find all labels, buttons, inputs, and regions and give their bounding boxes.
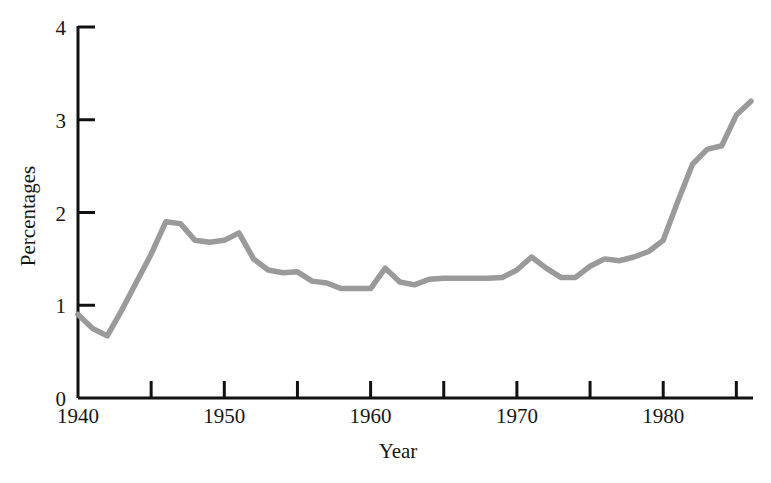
- x-axis-title: Year: [379, 439, 418, 463]
- data-series-line: [78, 101, 751, 336]
- x-tick-label-1960: 1960: [350, 404, 392, 428]
- chart-figure: 0123419401950196019701980 Percentages Ye…: [0, 0, 771, 483]
- y-axis-title: Percentages: [16, 166, 40, 266]
- y-tick-label-2: 2: [56, 202, 67, 226]
- axes: [78, 26, 753, 398]
- tick-marks: [78, 27, 736, 398]
- line-chart: 0123419401950196019701980 Percentages Ye…: [0, 0, 771, 483]
- y-tick-label-4: 4: [56, 16, 67, 40]
- tick-labels: 0123419401950196019701980: [56, 16, 685, 428]
- x-tick-label-1950: 1950: [203, 404, 245, 428]
- x-tick-label-1980: 1980: [642, 404, 684, 428]
- x-tick-label-1940: 1940: [57, 404, 99, 428]
- y-tick-label-1: 1: [56, 294, 67, 318]
- x-tick-label-1970: 1970: [496, 404, 538, 428]
- y-tick-label-3: 3: [56, 109, 67, 133]
